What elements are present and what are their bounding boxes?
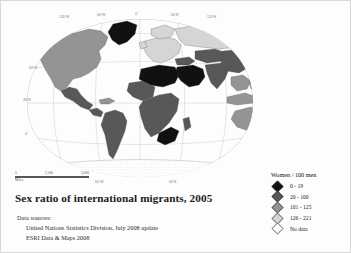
scale-tick-0: 0 [15, 171, 17, 175]
svg-text:60°E: 60°E [169, 180, 177, 184]
country-polygons [33, 21, 269, 179]
svg-text:120°E: 120°E [207, 15, 217, 19]
legend-swatch-diamond-icon [271, 223, 283, 235]
svg-text:60°N: 60°N [29, 66, 37, 70]
svg-text:120°W: 120°W [59, 15, 70, 19]
legend-item-label: 0 - 19 [290, 183, 303, 189]
scale-tick-1: 2,500 [45, 171, 53, 175]
map-legend: Women / 100 men 0 - 19 20 - 100 101 - 12… [269, 171, 349, 234]
region-south-america [101, 110, 127, 159]
region-madagascar [183, 117, 191, 131]
region-east-asia [221, 49, 253, 73]
scale-bar-ticks: 0 2,500 5,000 [15, 171, 89, 175]
svg-text:60°E: 60°E [171, 13, 179, 17]
svg-text:0°: 0° [25, 132, 29, 136]
region-alaska [33, 37, 51, 49]
longitude-labels-bottom: 60°W 60°E [95, 180, 177, 184]
legend-item-no-data[interactable]: No data [269, 223, 349, 234]
scale-tick-2: 5,000 [81, 171, 89, 175]
longitude-labels: 120°W 60°W 0° 60°E 120°E [59, 12, 217, 19]
data-source-line-2: ESRI Data & Maps 2008 [17, 233, 158, 243]
legend-item[interactable]: 101 - 125 [269, 202, 349, 213]
region-turkey [175, 57, 195, 65]
region-middle-east [175, 65, 205, 87]
legend-item-label: 20 - 100 [290, 194, 309, 200]
legend-item-label: No data [290, 226, 308, 232]
region-new-zealand [263, 129, 269, 139]
region-central-america [89, 108, 103, 117]
legend-item[interactable]: 0 - 19 [269, 181, 349, 192]
map-panel[interactable]: 120°W 60°W 0° 60°E 120°E 60°N 30°N 0° 60… [9, 7, 271, 185]
region-australia [231, 107, 261, 131]
region-southeast-asia [231, 75, 251, 91]
legend-item-label: 126 - 221 [290, 215, 311, 221]
page-title: Sex ratio of international migrants, 200… [15, 192, 212, 204]
region-japan [253, 49, 261, 63]
world-map-graphic: 120°W 60°W 0° 60°E 120°E 60°N 30°N 0° 60… [9, 7, 271, 185]
legend-title: Women / 100 men [269, 171, 349, 178]
data-source-line-1: United Nations Statistics Division, July… [17, 223, 158, 233]
region-north-america [39, 29, 108, 91]
region-philippines [249, 79, 257, 89]
svg-text:60°W: 60°W [95, 180, 104, 184]
legend-item[interactable]: 20 - 100 [269, 192, 349, 203]
svg-text:30°N: 30°N [23, 98, 31, 102]
scale-bar: 0 2,500 5,000 Miles [15, 171, 89, 182]
data-sources-block: Data sources: United Nations Statistics … [17, 213, 158, 242]
region-greenland [108, 21, 137, 45]
region-scandinavia [151, 25, 175, 39]
legend-item-label: 101 - 125 [290, 204, 311, 210]
scale-bar-unit: Miles [15, 178, 89, 182]
map-document-page: 120°W 60°W 0° 60°E 120°E 60°N 30°N 0° 60… [0, 0, 351, 253]
latitude-labels: 60°N 30°N 0° [23, 66, 37, 136]
region-mexico [61, 87, 93, 110]
region-russia [175, 25, 245, 49]
svg-text:0°: 0° [135, 12, 139, 16]
svg-text:60°W: 60°W [97, 13, 106, 17]
data-sources-heading: Data sources: [17, 213, 158, 223]
legend-item[interactable]: 126 - 221 [269, 213, 349, 224]
